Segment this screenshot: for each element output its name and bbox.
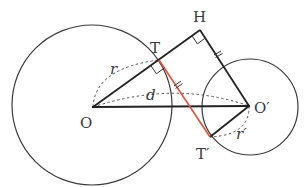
label-t-prime: T′ — [196, 145, 210, 163]
label-t: T — [150, 39, 160, 57]
label-r-prime: r′ — [236, 125, 247, 143]
label-d: d — [146, 86, 156, 104]
label-h: H — [193, 8, 206, 26]
right-angle-h — [192, 36, 205, 44]
label-o-prime: O′ — [254, 99, 270, 117]
segment-h-o-prime — [200, 30, 249, 106]
tangent-diagram: H T O O′ T′ r d r′ — [0, 0, 304, 187]
segment-o-o-prime — [93, 106, 249, 107]
point-o — [92, 106, 94, 108]
label-o: O — [80, 114, 92, 132]
label-r: r — [110, 60, 118, 78]
circle-o — [12, 25, 172, 185]
point-o-prime — [248, 105, 250, 107]
